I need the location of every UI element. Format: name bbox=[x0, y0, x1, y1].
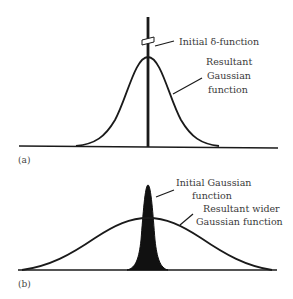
label-initial-gaussian-2: function bbox=[192, 190, 232, 201]
label-initial-delta: Initial δ-function bbox=[179, 36, 259, 47]
label-resultant-1: Resultant bbox=[206, 56, 252, 67]
label-initial-gaussian-1: Initial Gaussian bbox=[176, 177, 251, 188]
arrow-gaussian bbox=[173, 78, 202, 94]
label-wider-gaussian-2: Gaussian function bbox=[196, 216, 283, 227]
arrow-wider-gaussian bbox=[180, 214, 193, 225]
arrow-initial-gaussian bbox=[156, 190, 174, 197]
axis-break-mark bbox=[142, 37, 154, 45]
arrow-delta bbox=[155, 41, 174, 46]
panel-b-label: (b) bbox=[18, 279, 31, 289]
label-resultant-3: function bbox=[208, 84, 248, 95]
diagram-canvas: Initial δ-function Resultant Gaussian fu… bbox=[0, 0, 293, 299]
label-resultant-2: Gaussian bbox=[207, 70, 251, 81]
initial-gaussian-filled bbox=[127, 185, 168, 270]
panel-b: Initial Gaussian function Resultant wide… bbox=[18, 177, 283, 289]
label-wider-gaussian-1: Resultant wider bbox=[203, 203, 280, 214]
panel-a: Initial δ-function Resultant Gaussian fu… bbox=[18, 17, 278, 165]
panel-a-label: (a) bbox=[18, 155, 30, 165]
